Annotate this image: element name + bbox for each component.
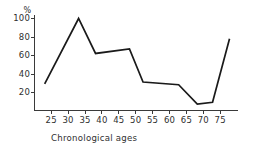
x-tick-label-65: 65 bbox=[181, 115, 192, 125]
x-tick-label-55: 55 bbox=[147, 115, 158, 125]
x-tick-label-25: 25 bbox=[46, 115, 57, 125]
y-tick-label-100: 100 bbox=[13, 13, 30, 23]
x-tick-label-60: 60 bbox=[164, 115, 175, 125]
x-tick-label-45: 45 bbox=[113, 115, 124, 125]
line-chart: % 100 80 60 40 20 25 30 35 40 45 50 5 bbox=[0, 0, 253, 149]
y-tick-label-20: 20 bbox=[19, 87, 30, 97]
data-series-line bbox=[45, 19, 230, 105]
x-tick-label-30: 30 bbox=[62, 115, 73, 125]
x-tick-label-50: 50 bbox=[130, 115, 141, 125]
y-tick-label-40: 40 bbox=[19, 69, 30, 79]
y-tick-label-80: 80 bbox=[19, 32, 30, 42]
x-tick-label-40: 40 bbox=[96, 115, 107, 125]
x-tick-label-35: 35 bbox=[79, 115, 90, 125]
x-tick-label-70: 70 bbox=[198, 115, 209, 125]
y-tick-label-60: 60 bbox=[19, 50, 30, 60]
chart-canvas: % 100 80 60 40 20 25 30 35 40 45 50 5 bbox=[0, 0, 253, 149]
chart-axes bbox=[35, 15, 239, 111]
x-axis-title: Chronological ages bbox=[51, 133, 138, 143]
x-tick-label-75: 75 bbox=[215, 115, 226, 125]
